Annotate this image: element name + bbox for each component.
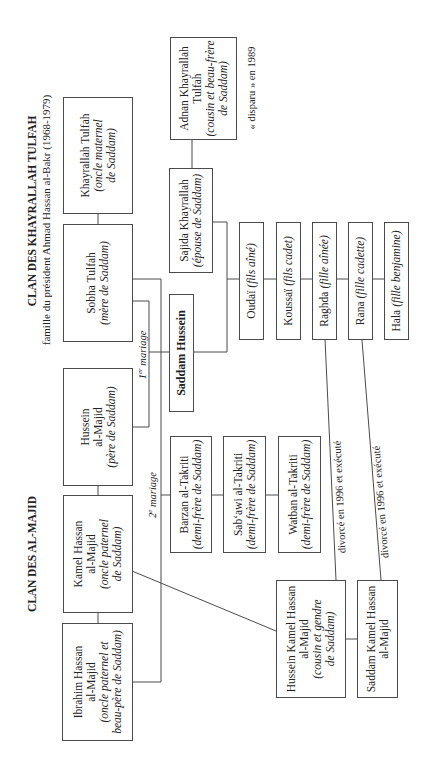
node-role: (fille benjamine) [390, 230, 403, 306]
node-hussein-kamel-hassan: Hussein Kamel Hassan al-Majid (cousin et… [276, 580, 346, 698]
node-name: Hala [390, 310, 403, 332]
node-name: Watban al-Takriti [287, 454, 300, 534]
edge-kamel-to-hussein-kamel [132, 571, 276, 631]
node-role: (demi-frère de Saddam) [300, 440, 313, 549]
node-name: Oudaï [245, 291, 258, 319]
node-role: (demi-frère de Saddam) [191, 440, 204, 549]
node-role: de Saddam) [105, 128, 118, 183]
node-name: Hussein Kamel Hassan [285, 586, 298, 693]
node-sajida-khayrallah: Sajida Khayrallah (épouse de Saddam) [169, 168, 213, 273]
node-role: (oncle paternel [98, 519, 111, 589]
node-role: de Saddam) [324, 612, 337, 667]
node-saddam-hussein: Saddam Hussein [169, 294, 194, 412]
subtitle-khayrallah-clan: famille du président Ahmad Hassan al-Bak… [40, 80, 52, 360]
node-role: (demi-frère de Saddam) [245, 440, 258, 549]
node-name: Sab‘awi al-Takriti [232, 453, 245, 536]
node-role: (père de Saddam) [105, 386, 118, 467]
node-hala: Hala (fille benjamine) [384, 222, 409, 340]
node-kamel-hassan: Kamel Hassan al-Majid (oncle paternel de… [63, 495, 133, 613]
node-role: (épouse de Saddam) [191, 174, 204, 267]
title-khayrallah-clan: CLAN DES KHAYRALLAH TULFAH [26, 91, 38, 331]
node-name: Adnan Khayrallah [178, 46, 191, 131]
node-role: de Saddam) [111, 527, 124, 582]
label-second-marriage: 2e mariage [146, 464, 158, 526]
node-rana: Rana (fille cadette) [348, 222, 373, 340]
marriage-number: 1 [137, 374, 148, 379]
node-name: Sobha Tulfah [85, 252, 98, 314]
node-role: beau-père de Saddam) [111, 630, 124, 734]
node-role: (mère de Saddam) [98, 241, 111, 325]
node-role: (fille aînée) [318, 235, 331, 288]
node-ibrahim-hassan: Ibrahim Hassan al-Majid (oncle paternel … [62, 623, 133, 741]
marriage-ordinal: er [136, 368, 144, 374]
node-role: (cousin et beau-frère [204, 41, 217, 137]
node-role: (oncle paternel et [98, 641, 111, 722]
node-name: Hussein [79, 408, 92, 445]
node-khayrallah-tulfah: Khayrallah Tulfah (oncle maternel de Sad… [63, 97, 133, 214]
node-name: Kamel Hassan [72, 521, 85, 588]
node-barzan-al-takriti: Barzan al-Takriti (demi-frère de Saddam) [170, 436, 212, 553]
node-koussai: Koussaï (fils cadet) [276, 222, 301, 340]
label-first-marriage: 1er mariage [136, 322, 148, 388]
node-role: (oncle maternel [92, 119, 105, 192]
node-name: Raghda [318, 292, 331, 327]
node-name: Barzan al-Takriti [178, 455, 191, 533]
node-role: de Saddam) [217, 61, 230, 116]
node-hussein-al-majid: Hussein al-Majid (père de Saddam) [63, 368, 133, 486]
node-name: al-Majid [85, 534, 98, 574]
node-name: Koussaï [282, 289, 295, 326]
node-name: Tulfah [191, 73, 204, 103]
node-name: Saddam Hussein [175, 310, 188, 396]
node-adnan-khayrallah: Adnan Khayrallah Tulfah (cousin et beau-… [170, 37, 237, 140]
node-watban-al-takriti: Watban al-Takriti (demi-frère de Saddam) [278, 436, 321, 553]
node-name: al-Majid [378, 619, 391, 659]
node-role: (cousin et gendre [311, 599, 324, 678]
node-oudai: Oudaï (fils aîné) [239, 222, 264, 340]
node-name: Saddam Kamel Hassan [365, 586, 378, 693]
marriage-number: 2 [147, 513, 158, 518]
label-adnan-disappeared: « disparu » en 1989 [246, 43, 257, 133]
node-name: al-Majid [85, 662, 98, 702]
marriage-ordinal: e [146, 510, 154, 513]
node-saddam-kamel-hassan: Saddam Kamel Hassan al-Majid [357, 580, 398, 698]
node-name: Sajida Khayrallah [178, 179, 191, 262]
marriage-text: mariage [137, 331, 148, 369]
title-majid-clan: CLAN DES AL-MAJID [26, 474, 38, 634]
node-role: (fille cadette) [354, 237, 367, 299]
family-tree-canvas: CLAN DES KHAYRALLAH TULFAH famille du pr… [0, 0, 433, 778]
node-name: al-Majid [92, 407, 105, 447]
node-name: Rana [354, 302, 367, 326]
node-name: al-Majid [298, 619, 311, 659]
node-role: (fils cadet) [282, 236, 295, 286]
node-sabawi-al-takriti: Sab‘awi al-Takriti (demi-frère de Saddam… [223, 436, 266, 553]
node-name: Khayrallah Tulfah [79, 114, 92, 198]
node-role: (fils aîné) [245, 243, 258, 287]
marriage-text: mariage [147, 472, 158, 510]
node-name: Ibrahim Hassan [72, 646, 85, 719]
node-raghda: Raghda (fille aînée) [312, 222, 337, 340]
node-sobha-tulfah: Sobha Tulfah (mère de Saddam) [63, 224, 133, 342]
